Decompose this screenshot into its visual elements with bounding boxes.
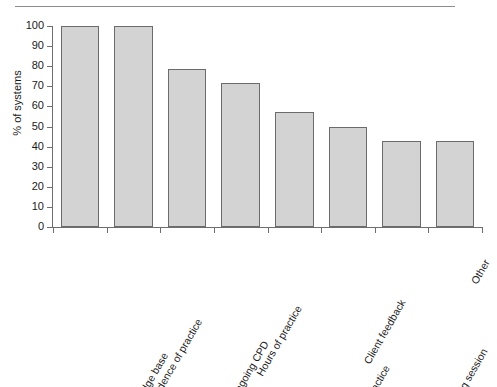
x-axis-tick bbox=[482, 228, 483, 233]
bar bbox=[61, 26, 100, 227]
bar bbox=[168, 69, 207, 227]
x-axis-tick bbox=[428, 228, 429, 233]
y-axis-tick-label: 50 bbox=[14, 121, 44, 132]
x-axis-tick-label: Observed coaching session bbox=[416, 347, 490, 387]
y-axis-tick bbox=[47, 46, 52, 47]
y-axis-tick-label: 20 bbox=[14, 181, 44, 192]
bar bbox=[329, 127, 368, 228]
y-axis-tick-label: 90 bbox=[14, 40, 44, 51]
x-axis-tick bbox=[321, 228, 322, 233]
y-axis-tick-label: 30 bbox=[14, 161, 44, 172]
x-axis-tick bbox=[160, 228, 161, 233]
x-axis-tick bbox=[214, 228, 215, 233]
y-axis-tick bbox=[47, 227, 52, 228]
y-axis-tick-label: 70 bbox=[14, 80, 44, 91]
y-axis-tick bbox=[47, 207, 52, 208]
y-axis-tick bbox=[47, 147, 52, 148]
plot-area bbox=[53, 26, 482, 227]
y-axis-tick-label: 80 bbox=[14, 60, 44, 71]
bar bbox=[275, 112, 314, 227]
y-axis-tick bbox=[47, 66, 52, 67]
y-axis-tick bbox=[47, 86, 52, 87]
x-axis-tick-label: Client feedback bbox=[362, 298, 407, 366]
y-axis-tick-label: 0 bbox=[14, 221, 44, 232]
y-axis-tick bbox=[47, 187, 52, 188]
x-axis-tick bbox=[375, 228, 376, 233]
y-axis-tick-label: 10 bbox=[14, 201, 44, 212]
y-axis-tick-label: 60 bbox=[14, 100, 44, 111]
bar-chart-figure: % of systems 0102030405060708090100 Evid… bbox=[0, 0, 497, 387]
x-axis-tick bbox=[268, 228, 269, 233]
y-axis-tick bbox=[47, 26, 52, 27]
bar bbox=[221, 83, 260, 227]
y-axis-tick bbox=[47, 167, 52, 168]
bar bbox=[382, 141, 421, 227]
bar bbox=[114, 26, 153, 227]
y-axis-tick-label: 40 bbox=[14, 141, 44, 152]
x-axis-tick bbox=[107, 228, 108, 233]
x-axis-tick bbox=[53, 228, 54, 233]
y-axis-tick-label: 100 bbox=[14, 20, 44, 31]
y-axis-tick bbox=[47, 106, 52, 107]
bar bbox=[436, 141, 475, 227]
x-axis-tick-label: Evidence of supervised practice bbox=[308, 363, 391, 387]
x-axis-tick-label: Other bbox=[469, 258, 491, 286]
top-horizontal-rule bbox=[15, 6, 455, 7]
y-axis-tick bbox=[47, 127, 52, 128]
